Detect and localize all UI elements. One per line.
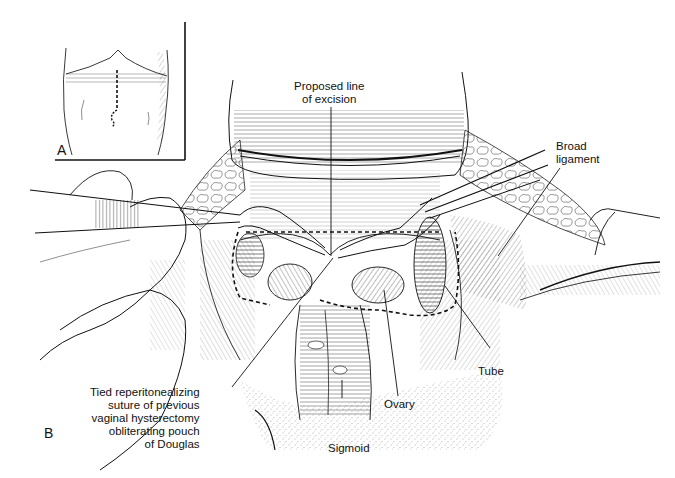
label-broad-ligament: Broad ligament [556, 140, 599, 166]
panel-letter-b: B [44, 425, 53, 441]
leader-ovary [384, 290, 398, 396]
surgical-illustration: A B Proposed line of excision Broad liga… [0, 0, 675, 478]
panel-letter-a: A [57, 142, 66, 158]
inset-panel-a [55, 22, 185, 160]
label-tube: Tube [478, 365, 504, 378]
label-ovary: Ovary [384, 398, 415, 411]
label-tied-reperitonealizing-suture: Tied reperitonealizing suture of previou… [90, 386, 200, 451]
label-sigmoid: Sigmoid [328, 442, 370, 455]
label-proposed-line-of-excision: Proposed line of excision [294, 80, 364, 106]
